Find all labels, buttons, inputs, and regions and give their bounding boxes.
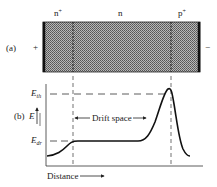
y-axis-label: E (29, 112, 35, 121)
graph-axes (46, 84, 203, 166)
part-a-label: (a) (6, 44, 16, 53)
drift-space-label: Drift space (92, 114, 132, 123)
threshold-level-label: Eth (31, 89, 41, 99)
positive-terminal: + (33, 43, 38, 52)
drift-level-label: Edr (31, 136, 42, 146)
device-structure (43, 22, 200, 72)
x-axis-label: Distance (47, 172, 79, 181)
region-n-plus-label: n+ (54, 8, 62, 18)
negative-terminal: − (205, 43, 210, 52)
region-n-label: n (118, 9, 123, 18)
region-p-plus-label: p+ (178, 8, 186, 18)
part-b-label: (b) (14, 112, 25, 121)
